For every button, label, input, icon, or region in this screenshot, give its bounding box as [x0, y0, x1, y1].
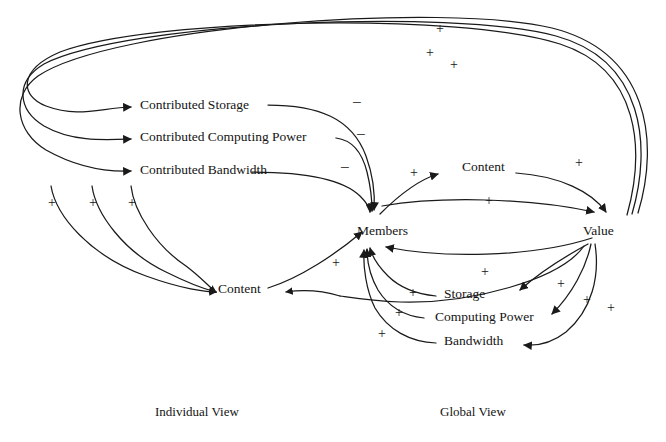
sign-computing-power-negative: − [356, 130, 366, 140]
sign-top-2: + [426, 48, 434, 58]
caption-global-view: Global View [440, 404, 506, 420]
edge-individual-content-to-members [268, 232, 362, 288]
sign-storage-negative: − [352, 98, 362, 108]
sign-top-3: + [450, 60, 458, 70]
node-global-content: Content [462, 160, 505, 174]
node-contributed-storage: Contributed Storage [140, 98, 249, 112]
sign-content-members: + [485, 196, 493, 206]
sign-computing-power-to-members: + [395, 308, 403, 318]
sign-individual-content-to-members: + [332, 258, 340, 268]
edge-value-to-members [386, 238, 592, 254]
caption-individual-view: Individual View [155, 404, 239, 420]
edge-members-to-global-content [380, 174, 438, 214]
edge-value-to-individual-content [286, 291, 340, 296]
edge-contributed-bandwidth-to-members [252, 172, 370, 212]
edge-value-to-contributed-computing-power [23, 21, 641, 214]
sign-left-3: + [128, 198, 136, 208]
edge-storage-to-members [370, 248, 436, 296]
node-computing-power: Computing Power [435, 310, 534, 324]
sign-storage-to-members: + [409, 288, 417, 298]
node-storage: Storage [444, 287, 485, 301]
edge-bandwidth-to-members [364, 250, 436, 343]
edge-value-to-contributed-storage [27, 23, 635, 215]
node-members: Members [357, 224, 408, 238]
node-contributed-bandwidth: Contributed Bandwidth [140, 163, 267, 177]
sign-bandwidth-to-members: + [378, 329, 386, 339]
sign-top-1: + [436, 24, 444, 34]
sign-members-to-content: + [410, 168, 418, 178]
sign-bandwidth-negative: − [340, 163, 350, 173]
edge-value-to-contributed-bandwidth [20, 17, 647, 213]
sign-content-to-value: + [575, 158, 583, 168]
node-value: Value [583, 224, 614, 238]
sign-value-to-storage: + [557, 279, 565, 289]
sign-value-to-bandwidth: + [607, 303, 615, 313]
node-contributed-computing-power: Contributed Computing Power [140, 130, 307, 144]
node-individual-content: Content [218, 282, 261, 296]
sign-left-2: + [89, 198, 97, 208]
sign-left-1: + [48, 198, 56, 208]
sign-value-to-computing-power: + [583, 295, 591, 305]
sign-value-to-members: + [481, 267, 489, 277]
causal-loop-diagram [0, 0, 666, 442]
node-bandwidth: Bandwidth [444, 334, 503, 348]
figure-canvas: Contributed Storage Contributed Computin… [0, 0, 666, 442]
